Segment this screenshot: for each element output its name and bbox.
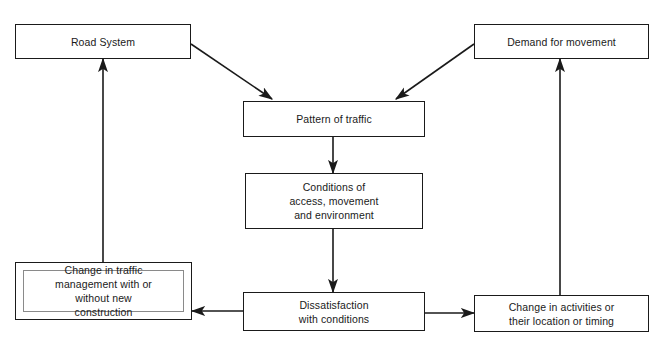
node-pattern-of-traffic-label: Pattern of traffic [292,112,376,126]
node-dissatisfaction-label: Dissatisfaction with conditions [295,298,373,326]
node-change-in-activities-label: Change in activities or their location o… [505,300,619,328]
node-dissatisfaction[interactable]: Dissatisfaction with conditions [243,292,425,331]
node-road-system-label: Road System [67,35,139,49]
node-change-in-traffic-management-panel: Change in traffic management with or wit… [23,270,184,312]
node-change-in-traffic-management-label: Change in traffic management with or wit… [51,263,156,319]
edge-road-system-to-pattern [191,44,272,99]
node-conditions-label: Conditions of access, movement and envir… [285,180,382,222]
node-conditions[interactable]: Conditions of access, movement and envir… [245,173,423,229]
node-change-in-traffic-management[interactable]: Change in traffic management with or wit… [15,262,192,320]
flowchart-diagram: Road System Demand for movement Pattern … [0,0,664,345]
node-pattern-of-traffic[interactable]: Pattern of traffic [243,101,425,137]
node-demand-for-movement-label: Demand for movement [503,35,620,49]
node-demand-for-movement[interactable]: Demand for movement [474,24,649,59]
node-change-in-activities[interactable]: Change in activities or their location o… [474,295,649,332]
node-road-system[interactable]: Road System [15,24,191,59]
edge-demand-to-pattern [396,44,474,99]
